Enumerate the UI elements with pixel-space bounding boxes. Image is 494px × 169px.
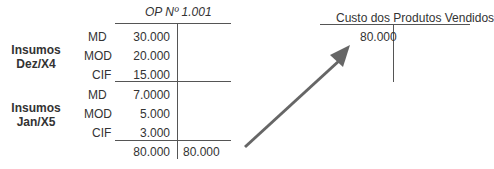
arrow-head bbox=[330, 45, 350, 67]
arrow-shaft bbox=[245, 60, 340, 147]
